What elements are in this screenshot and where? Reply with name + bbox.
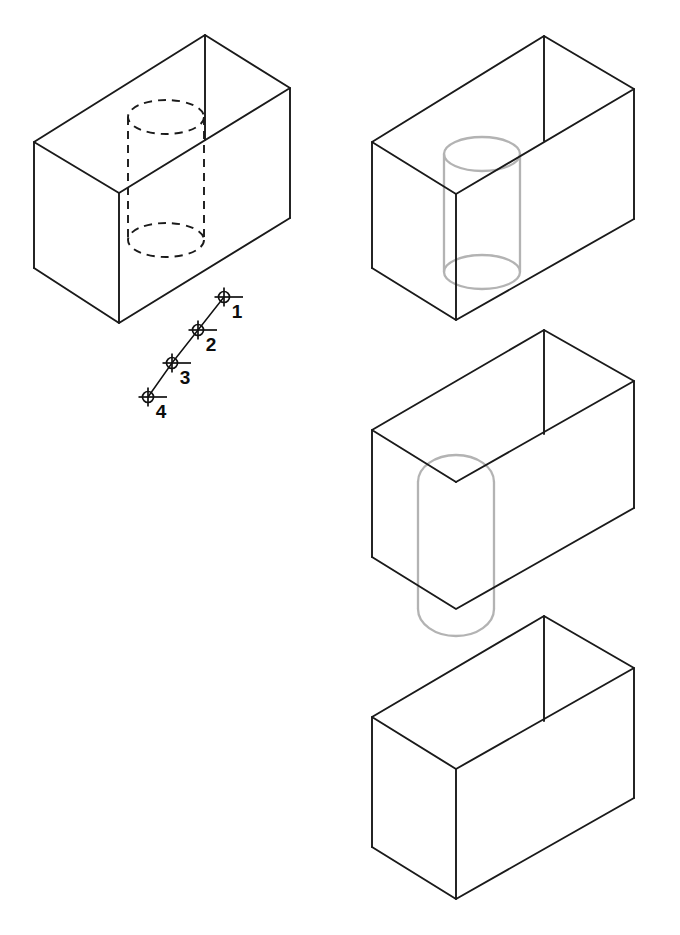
box-3-top-face — [372, 330, 634, 482]
hidden-hole-top-ellipse — [128, 100, 204, 134]
box-2-bottom-left-face — [372, 219, 634, 320]
groove-top-arc — [418, 455, 494, 482]
hidden-cylinder-feature — [128, 100, 204, 257]
panel-2-box-wireframe — [372, 36, 634, 320]
groove-bottom-arc — [418, 609, 494, 636]
point-label-3: 3 — [180, 367, 191, 388]
box-2-top-face — [372, 36, 634, 194]
ghost-cylinder-top-ellipse — [444, 137, 520, 171]
point-marker-4[interactable]: 4 — [139, 388, 168, 423]
panel-4-box-wireframe — [372, 616, 634, 899]
panel-3-box-wireframe — [372, 330, 634, 609]
point-label-2: 2 — [206, 334, 217, 355]
box-1-top-face — [34, 35, 290, 193]
hidden-hole-bottom-ellipse — [128, 223, 204, 257]
box-1-bottom-left-face — [34, 218, 290, 323]
box-4-bottom-left-face — [372, 798, 634, 899]
panel-1-block-with-hidden-hole — [34, 35, 290, 323]
panel-1-box-wireframe — [34, 35, 290, 323]
point-label-4: 4 — [156, 401, 167, 422]
box-3-bottom-left-face — [372, 508, 634, 609]
numbered-point-chain: 1 2 3 4 — [139, 288, 244, 423]
figure-root: 1 2 3 4 — [0, 0, 680, 935]
box-4-top-face — [372, 616, 634, 769]
point-label-1: 1 — [232, 301, 243, 322]
panel-2-block-with-ghost-cylinder — [372, 36, 634, 320]
isometric-diagram-canvas: 1 2 3 4 — [0, 0, 680, 935]
panel-3-block-with-half-groove — [372, 330, 634, 636]
panel-4-plain-block — [372, 616, 634, 899]
